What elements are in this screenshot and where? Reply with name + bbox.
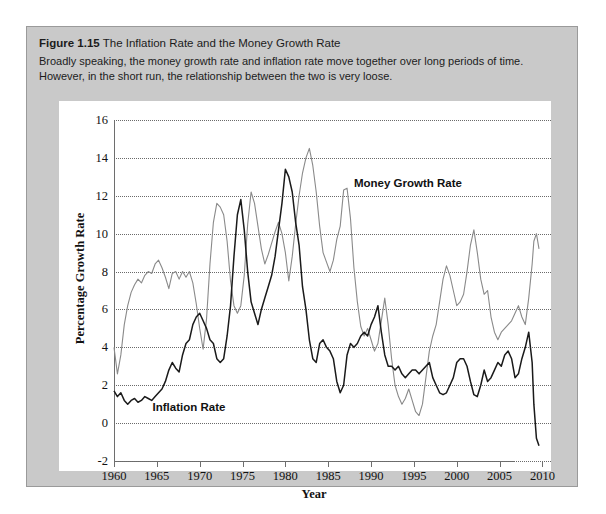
y-axis-title: Percentage Growth Rate bbox=[73, 169, 88, 389]
x-tick-1960 bbox=[114, 461, 115, 467]
x-tick-1990 bbox=[371, 461, 372, 467]
series-line-money-growth bbox=[114, 148, 539, 415]
x-tick-2000 bbox=[457, 461, 458, 467]
x-tick-2005 bbox=[500, 461, 501, 467]
x-tick-1985 bbox=[328, 461, 329, 467]
figure-card: Figure 1.15 The Inflation Rate and the M… bbox=[26, 26, 578, 487]
figure-title: The Inflation Rate and the Money Growth … bbox=[103, 37, 341, 49]
x-tick-1970 bbox=[200, 461, 201, 467]
x-tick-1980 bbox=[285, 461, 286, 467]
series-lines bbox=[59, 101, 551, 471]
figure-title-line: Figure 1.15 The Inflation Rate and the M… bbox=[39, 35, 567, 51]
figure-header: Figure 1.15 The Inflation Rate and the M… bbox=[39, 35, 567, 83]
chart-plot-panel: -20246810121416 Money Growth Rate Inflat… bbox=[59, 101, 551, 471]
x-axis-title: Year bbox=[114, 487, 514, 502]
figure-caption: Broadly speaking, the money growth rate … bbox=[39, 54, 563, 83]
x-tick-1995 bbox=[414, 461, 415, 467]
x-tick-1975 bbox=[243, 461, 244, 467]
figure-number: Figure 1.15 bbox=[39, 37, 100, 49]
series-label-inflation: Inflation Rate bbox=[153, 401, 226, 413]
x-tick-label-2010: 2010 bbox=[517, 469, 567, 484]
x-tick-1965 bbox=[157, 461, 158, 467]
series-label-money-growth: Money Growth Rate bbox=[354, 177, 462, 189]
x-tick-2010 bbox=[542, 461, 543, 467]
chart-canvas: -20246810121416 Money Growth Rate Inflat… bbox=[59, 101, 551, 471]
